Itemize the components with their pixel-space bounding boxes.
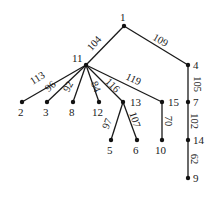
- node-11: [84, 63, 88, 67]
- node-8: [71, 100, 75, 104]
- node-label: 12: [92, 106, 103, 118]
- node-label: 15: [168, 96, 180, 108]
- node-14: [186, 138, 190, 142]
- edge-weight-label: 105: [192, 76, 203, 92]
- edge-weight-label: 96: [43, 79, 58, 94]
- node-5: [109, 138, 113, 142]
- node-2: [20, 100, 24, 104]
- node-7: [186, 100, 190, 104]
- edge-weight-label: 116: [103, 76, 122, 95]
- node-label: 14: [193, 134, 205, 146]
- node-12: [97, 100, 101, 104]
- node-label: 1: [120, 11, 126, 23]
- node-label: 4: [193, 59, 199, 71]
- node-3: [45, 100, 49, 104]
- node-labels: 111423812131575610149: [18, 11, 205, 184]
- edge-weight-label: 62: [189, 154, 200, 165]
- node-label: 3: [43, 106, 49, 118]
- node-1: [122, 24, 126, 28]
- tree-diagram: 104109113969284116119105971077010262 111…: [0, 0, 214, 197]
- edge-weight-label: 107: [127, 110, 142, 128]
- edge-weight-label: 70: [163, 116, 174, 127]
- node-13: [121, 100, 125, 104]
- node-9: [186, 176, 190, 180]
- edge-weight-label: 109: [151, 31, 170, 48]
- node-label: 10: [155, 144, 167, 156]
- node-label: 6: [133, 144, 139, 156]
- edge-weight-label: 84: [89, 80, 103, 95]
- edge-weight-label: 97: [100, 117, 114, 131]
- edge-weight-label: 102: [189, 113, 200, 129]
- node-label: 5: [107, 144, 113, 156]
- node-10: [160, 138, 164, 142]
- edge-weight-label: 92: [61, 79, 76, 93]
- node-4: [186, 63, 190, 67]
- node-label: 8: [69, 106, 75, 118]
- node-label: 13: [130, 96, 142, 108]
- node-6: [135, 138, 139, 142]
- node-label: 11: [72, 52, 83, 64]
- node-label: 9: [193, 172, 199, 184]
- node-label: 2: [18, 106, 24, 118]
- node-15: [160, 100, 164, 104]
- node-label: 7: [193, 96, 199, 108]
